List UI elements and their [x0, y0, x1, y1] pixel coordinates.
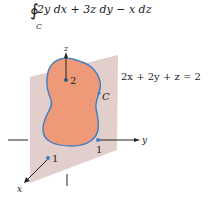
x-intercept-label: 1: [52, 153, 58, 164]
surface-diagram: z 2 C y 1 x 1: [0, 0, 209, 201]
x-axis-label: x: [17, 184, 22, 194]
z-axis-label: z: [63, 44, 69, 53]
x-intercept-point: [46, 156, 50, 160]
curve-c-label: C: [102, 91, 110, 102]
y-intercept-label: 1: [96, 144, 102, 155]
z-intercept-label: 2: [70, 75, 76, 86]
region-bounded-by-c: [43, 58, 100, 146]
c-marker-point: [97, 91, 100, 94]
z-intercept-point: [64, 78, 68, 82]
y-axis-label: y: [141, 135, 148, 145]
plane-equation: 2x + 2y + z = 2: [121, 71, 201, 82]
y-axis-arrowhead: [134, 138, 140, 142]
y-intercept-point: [96, 138, 100, 142]
